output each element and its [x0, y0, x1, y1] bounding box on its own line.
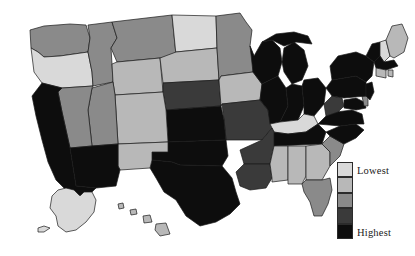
state-colorado [115, 92, 168, 144]
state-minnesota [216, 13, 254, 80]
legend-swatch-3 [337, 208, 353, 223]
state-montana [111, 15, 176, 62]
legend-swatch-0 [337, 162, 353, 177]
legend-label-highest: Highest [357, 228, 391, 239]
state-connecticut [376, 68, 386, 78]
state-texas [150, 160, 240, 226]
state-rhode-island [388, 70, 393, 77]
state-new-jersey [366, 82, 374, 100]
state-louisiana [236, 164, 272, 190]
state-arizona [70, 144, 120, 188]
state-hawaii-2 [130, 209, 137, 215]
state-alaska-aleutians [38, 226, 50, 232]
state-virginia [318, 110, 364, 126]
state-maine [386, 24, 408, 58]
state-ohio [302, 78, 326, 116]
legend-swatch-1 [337, 177, 353, 192]
state-hawaii-4 [155, 223, 170, 236]
legend-swatch-4 [337, 224, 353, 239]
state-hawaii-3 [143, 215, 152, 223]
legend-swatch-column [337, 162, 353, 239]
state-florida [302, 178, 332, 216]
state-kansas [166, 106, 226, 142]
legend-label-lowest: Lowest [357, 166, 389, 177]
state-wyoming [112, 58, 163, 95]
state-nebraska [163, 80, 221, 110]
state-michigan [282, 42, 308, 84]
us-choropleth-figure: Lowest Highest [0, 0, 415, 256]
state-alabama [288, 146, 306, 184]
legend-swatch-2 [337, 193, 353, 208]
state-georgia [306, 144, 330, 180]
state-alaska [50, 188, 96, 232]
state-hawaii-1 [118, 203, 124, 209]
state-washington [30, 24, 90, 57]
state-mississippi [270, 146, 288, 182]
state-utah [88, 82, 118, 146]
